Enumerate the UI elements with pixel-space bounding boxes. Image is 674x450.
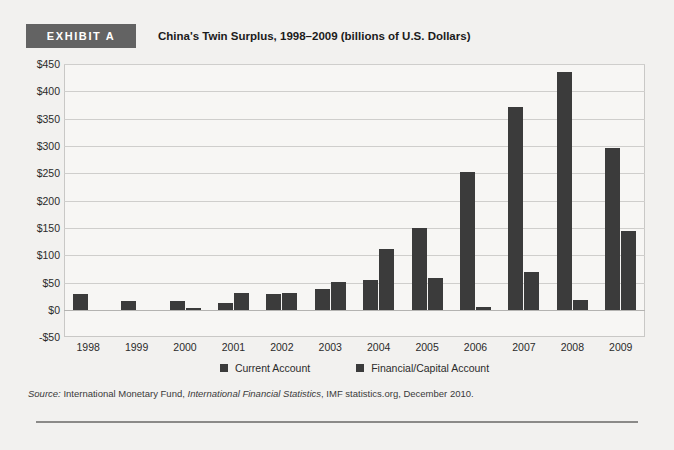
x-axis-tick-label: 2008 bbox=[561, 341, 584, 353]
source-text-2: , IMF statistics.org, December 2010. bbox=[321, 388, 474, 399]
bar bbox=[557, 72, 572, 310]
x-axis-tick-label: 2003 bbox=[319, 341, 342, 353]
bar bbox=[428, 278, 443, 310]
source-prefix: Source: bbox=[28, 388, 61, 399]
exhibit-chart-panel: EXHIBIT A China's Twin Surplus, 1998–200… bbox=[0, 0, 674, 450]
chart-legend: Current AccountFinancial/Capital Account bbox=[64, 362, 645, 374]
y-axis-tick-label: -$50 bbox=[4, 331, 60, 343]
bar bbox=[379, 249, 394, 310]
y-axis-tick-label: $400 bbox=[4, 85, 60, 97]
x-axis-tick-label: 1998 bbox=[77, 341, 100, 353]
bar bbox=[331, 282, 346, 310]
y-axis-tick-label: $200 bbox=[4, 195, 60, 207]
bar bbox=[315, 289, 330, 310]
x-axis-tick-label: 2001 bbox=[222, 341, 245, 353]
legend-item: Financial/Capital Account bbox=[356, 362, 489, 374]
bar bbox=[266, 294, 281, 310]
x-axis-tick-label: 2005 bbox=[415, 341, 438, 353]
bar bbox=[476, 307, 491, 310]
x-axis-tick-label: 2007 bbox=[512, 341, 535, 353]
y-axis-tick-label: $100 bbox=[4, 249, 60, 261]
source-publication: International Financial Statistics bbox=[188, 388, 322, 399]
legend-swatch-icon bbox=[356, 364, 364, 372]
y-axis-tick-label: $300 bbox=[4, 140, 60, 152]
bar bbox=[282, 293, 297, 310]
bar bbox=[605, 148, 620, 310]
bar bbox=[573, 300, 588, 310]
bar bbox=[460, 172, 475, 310]
bar bbox=[508, 107, 523, 310]
bar bbox=[73, 294, 88, 310]
page-title: China's Twin Surplus, 1998–2009 (billion… bbox=[158, 24, 470, 48]
x-axis-tick-label: 2009 bbox=[609, 341, 632, 353]
bar bbox=[186, 308, 201, 310]
legend-item-label: Current Account bbox=[235, 362, 310, 374]
y-axis-tick-label: $250 bbox=[4, 167, 60, 179]
x-axis-tick-label: 2004 bbox=[367, 341, 390, 353]
x-axis: 1998199920002001200220032004200520062007… bbox=[64, 341, 645, 357]
bar bbox=[170, 301, 185, 310]
bar bbox=[524, 272, 539, 310]
bars-layer bbox=[64, 64, 645, 337]
x-axis-tick-label: 2006 bbox=[464, 341, 487, 353]
bar bbox=[412, 228, 427, 310]
x-axis-tick-label: 1999 bbox=[125, 341, 148, 353]
source-text-1: International Monetary Fund, bbox=[61, 388, 188, 399]
x-axis-tick-label: 2000 bbox=[173, 341, 196, 353]
y-axis-tick-label: $350 bbox=[4, 113, 60, 125]
legend-item: Current Account bbox=[220, 362, 310, 374]
y-axis-tick-label: $0 bbox=[4, 304, 60, 316]
y-axis-tick-label: $450 bbox=[4, 58, 60, 70]
legend-item-label: Financial/Capital Account bbox=[371, 362, 489, 374]
y-axis: $450$400$350$300$250$200$150$100$50$0-$5… bbox=[0, 0, 60, 450]
bar bbox=[621, 231, 636, 310]
bar bbox=[234, 293, 249, 310]
exhibit-header: EXHIBIT A China's Twin Surplus, 1998–200… bbox=[26, 24, 648, 48]
source-note: Source: International Monetary Fund, Int… bbox=[28, 388, 474, 399]
x-axis-tick-label: 2002 bbox=[270, 341, 293, 353]
bar bbox=[121, 301, 136, 310]
y-axis-tick-label: $150 bbox=[4, 222, 60, 234]
bar bbox=[218, 303, 233, 310]
bar bbox=[363, 280, 378, 310]
bottom-divider bbox=[36, 421, 638, 423]
y-axis-tick-label: $50 bbox=[4, 277, 60, 289]
legend-swatch-icon bbox=[220, 364, 228, 372]
